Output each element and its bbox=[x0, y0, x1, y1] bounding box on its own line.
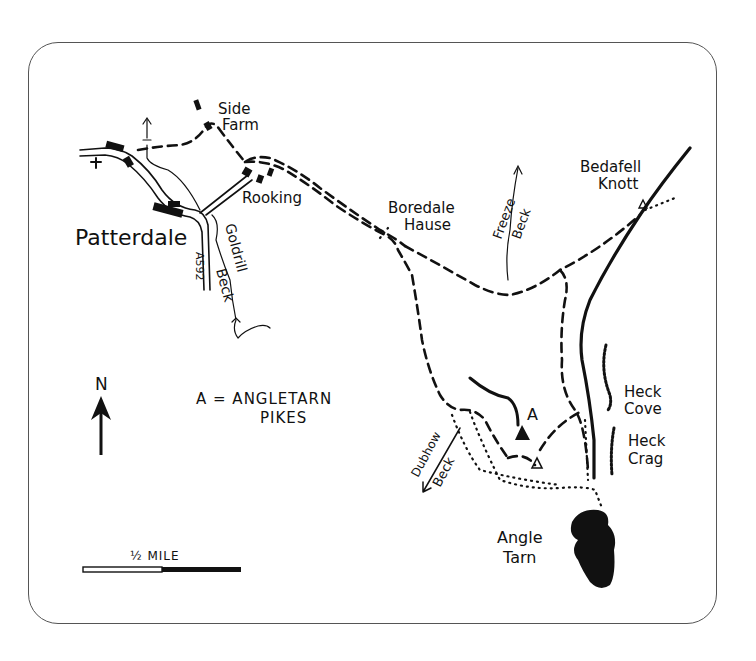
scale-bar bbox=[83, 567, 241, 572]
scale-label: ½ MILE bbox=[130, 549, 180, 563]
road-a592 bbox=[80, 148, 210, 290]
label-patterdale: Patterdale bbox=[75, 225, 187, 250]
label-goldrill: Goldrill bbox=[222, 222, 250, 274]
route-map: Side Farm Rooking Patterdale Boredale Ha… bbox=[0, 0, 756, 661]
label-heck-crag: Crag bbox=[628, 450, 663, 468]
church-cross-icon bbox=[91, 158, 101, 168]
angle-tarn-water bbox=[571, 510, 615, 588]
label-summit-a: A bbox=[527, 405, 538, 424]
label-boredale-hause: Hause bbox=[404, 216, 451, 234]
label-a592: A592 bbox=[193, 252, 206, 281]
label-angle-tarn: Angle bbox=[497, 528, 543, 547]
legend-line-2: PIKES bbox=[260, 409, 307, 427]
label-bedafell-knott: Knott bbox=[598, 175, 638, 193]
north-label: N bbox=[95, 374, 108, 394]
label-heck-cove: Cove bbox=[624, 400, 662, 418]
label-angle-tarn: Tarn bbox=[502, 548, 536, 567]
footpaths bbox=[138, 123, 640, 470]
label-bedafell-knott: Bedafell bbox=[580, 158, 641, 176]
label-goldrill-beck: Beck bbox=[213, 267, 237, 305]
label-rooking: Rooking bbox=[242, 189, 302, 207]
summit-triangle-icon bbox=[515, 425, 530, 440]
north-arrow-icon bbox=[91, 396, 111, 455]
trig-point-icon bbox=[532, 458, 542, 468]
legend-line-1: A = ANGLETARN bbox=[196, 390, 332, 408]
label-side-farm: Farm bbox=[222, 116, 259, 134]
label-heck-crag: Heck bbox=[628, 432, 666, 450]
label-boredale-hause: Boredale bbox=[388, 199, 455, 217]
label-heck-cove: Heck bbox=[624, 383, 662, 401]
label-dubhow-beck: Beck bbox=[429, 454, 457, 489]
